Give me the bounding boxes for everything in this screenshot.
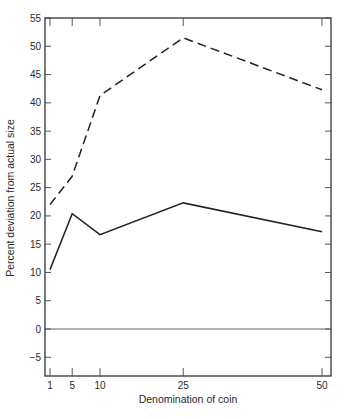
plot-border: [45, 18, 331, 376]
data-lines: [50, 38, 322, 270]
y-tick-label: 25: [30, 182, 42, 193]
line-chart: −5051015202530354045505515102550 Percent…: [0, 0, 350, 419]
y-tick-label: 50: [30, 41, 42, 52]
y-tick-label: −5: [30, 352, 42, 363]
x-tick-label: 10: [94, 380, 106, 391]
series-line-dashed: [50, 38, 322, 205]
axis-ticks: −5051015202530354045505515102550: [30, 13, 331, 392]
x-tick-label: 5: [69, 380, 75, 391]
y-tick-label: 35: [30, 126, 42, 137]
y-axis-title: Percent deviation from actual size: [4, 119, 16, 277]
series-line-solid: [50, 203, 322, 270]
y-tick-label: 15: [30, 239, 42, 250]
y-tick-label: 40: [30, 97, 42, 108]
x-tick-label: 25: [178, 380, 190, 391]
y-tick-label: 45: [30, 69, 42, 80]
x-tick-label: 50: [316, 380, 328, 391]
y-tick-label: 0: [35, 324, 41, 335]
plot-frame: [45, 18, 331, 376]
x-axis-title: Denomination of coin: [139, 393, 238, 405]
y-tick-label: 10: [30, 267, 42, 278]
x-tick-label: 1: [47, 380, 53, 391]
y-tick-label: 55: [30, 13, 42, 24]
y-tick-label: 5: [35, 295, 41, 306]
y-tick-label: 20: [30, 210, 42, 221]
y-tick-label: 30: [30, 154, 42, 165]
